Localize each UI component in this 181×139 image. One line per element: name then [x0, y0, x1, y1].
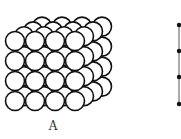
point-dot	[177, 75, 181, 79]
sphere	[66, 52, 85, 71]
sphere	[26, 32, 45, 51]
sphere	[66, 92, 85, 111]
sphere-stack-a	[6, 17, 112, 110]
point-dot	[177, 102, 181, 106]
panel-label-a: A	[46, 119, 60, 133]
side-view-line	[177, 23, 181, 106]
sphere	[46, 92, 65, 111]
point-dot	[177, 23, 181, 27]
sphere	[46, 32, 65, 51]
sphere	[66, 72, 85, 91]
sphere	[46, 72, 65, 91]
point-dot	[177, 49, 181, 53]
sphere	[6, 72, 25, 91]
sphere	[6, 92, 25, 111]
sphere	[26, 52, 45, 71]
sphere	[46, 52, 65, 71]
sphere	[6, 52, 25, 71]
sphere	[6, 32, 25, 51]
sphere	[66, 32, 85, 51]
sphere-packing-diagram	[0, 0, 181, 139]
sphere	[26, 72, 45, 91]
sphere	[26, 92, 45, 111]
